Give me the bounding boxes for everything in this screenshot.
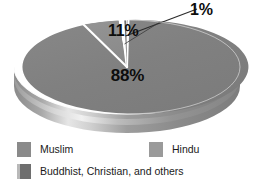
legend-item-hindu[interactable]: Hindu — [149, 142, 199, 157]
pie-chart-figure: 88% 11% 1% Muslim Hindu Buddhist, Christ… — [0, 0, 255, 180]
legend-item-others[interactable]: Buddhist, Christian, and others — [17, 164, 184, 179]
chart-legend: Muslim Hindu Buddhist, Christian, and ot… — [0, 135, 255, 180]
legend-row: Buddhist, Christian, and others — [0, 161, 255, 180]
legend-label-others: Buddhist, Christian, and others — [40, 166, 184, 177]
legend-swatch-icon-others — [17, 164, 31, 179]
pie-label-1: 1% — [190, 1, 213, 19]
pie-label-88: 88% — [0, 66, 255, 86]
legend-swatch-icon-hindu — [149, 142, 163, 157]
legend-item-muslim[interactable]: Muslim — [17, 142, 73, 157]
legend-swatch-icon-muslim — [17, 142, 31, 157]
legend-label-hindu: Hindu — [172, 144, 199, 155]
legend-row: Muslim Hindu — [0, 139, 255, 159]
pie-label-11: 11% — [108, 22, 139, 40]
pie-plot-area: 88% 11% 1% — [0, 0, 255, 136]
legend-label-muslim: Muslim — [40, 144, 73, 155]
